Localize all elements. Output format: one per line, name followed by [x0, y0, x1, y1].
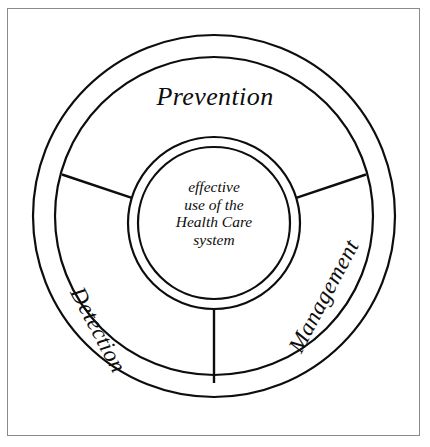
- center-text-line-4: system: [138, 231, 290, 249]
- center-text-line-3: Health Care: [138, 213, 290, 231]
- diagram-canvas: Prevention Detection Management effectiv…: [0, 0, 430, 447]
- divider-upper-left: [62, 175, 132, 198]
- center-text-line-1: effective: [138, 178, 290, 196]
- center-hub-text: effective use of the Health Care system: [138, 178, 290, 248]
- center-text-line-2: use of the: [138, 196, 290, 214]
- divider-upper-right: [296, 175, 366, 198]
- segment-label-prevention: Prevention: [0, 82, 430, 112]
